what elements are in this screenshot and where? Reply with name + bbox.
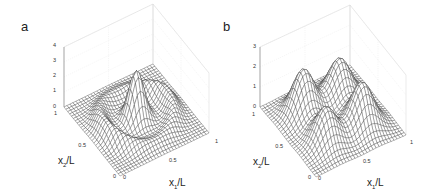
x1-tick: 0.5 [363,158,371,164]
panel-a-z-ticks: 4 3 2 1 0 [53,42,56,109]
x2-tick: 0.5 [275,143,283,149]
panel-b-surface-mesh [260,58,406,177]
panel-b-x1-label: x1/L [367,177,384,190]
z-tick: 1 [253,83,256,89]
panel-a-x1-label: x1/L [169,177,186,190]
x1-tick: 1 [215,138,218,144]
z-tick: 1 [53,87,56,93]
panel-a-label: a [21,19,29,34]
panel-b-z-ticks: 3 2 1 0 [253,43,256,109]
x2-tick: 1 [54,110,57,116]
panel-a-x2-label: x2/L [58,155,75,168]
z-tick: 3 [53,57,56,63]
z-tick: 0 [253,103,256,109]
x2-tick: 0 [113,173,116,179]
z-tick: 2 [253,63,256,69]
panel-a-surface-mesh [64,64,209,176]
panel-b-label: b [223,19,230,34]
x2-tick: 0 [308,174,311,180]
x1-tick: 0 [318,175,321,181]
x2-tick: 1 [252,111,255,117]
z-tick: 0 [53,103,56,109]
x1-tick: 0.5 [169,157,177,163]
panel-a: a 4 3 2 1 0 1 0.5 0 0 0.5 1 x2/L x1/L [21,4,218,190]
panel-b-x2-label: x2/L [253,156,270,169]
x1-tick: 1 [410,139,413,145]
z-tick: 4 [53,42,56,48]
figure-canvas: a 4 3 2 1 0 1 0.5 0 0 0.5 1 x2/L x1/L b … [0,0,431,196]
z-tick: 2 [53,72,56,78]
panel-b: b 3 2 1 0 1 0.5 0 0 0.5 1 x2/L x1/L [223,5,413,190]
x2-tick: 0.5 [78,142,86,148]
z-tick: 3 [253,43,256,49]
x1-tick: 0 [123,174,126,180]
